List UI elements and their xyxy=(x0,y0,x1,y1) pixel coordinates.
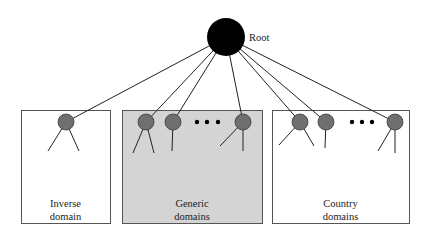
root-node-group: Root xyxy=(207,18,270,56)
root-node xyxy=(207,18,245,56)
domain-label-generic-line2: domains xyxy=(174,211,210,222)
dns-tree-diagram: Root InversedomainGenericdomainsCountryd… xyxy=(0,0,428,240)
generic-node xyxy=(235,114,251,130)
edge-root-to-inverse-0 xyxy=(66,37,226,122)
root-label: Root xyxy=(249,32,270,43)
ellipsis-dot xyxy=(216,120,220,124)
ellipsis-dot xyxy=(195,120,199,124)
ellipsis-dot xyxy=(350,120,354,124)
domain-label-country-line1: Country xyxy=(323,198,358,209)
domain-label-country-line2: domains xyxy=(323,211,359,222)
domain-label-inverse-line2: domain xyxy=(50,211,82,222)
generic-node xyxy=(138,114,154,130)
domain-label-generic-line1: Generic xyxy=(175,198,209,209)
ellipsis-dot xyxy=(360,120,364,124)
country-node xyxy=(292,114,308,130)
domain-label-inverse-line1: Inverse xyxy=(50,198,81,209)
inverse-node xyxy=(58,114,74,130)
generic-node xyxy=(165,114,181,130)
ellipsis-dot xyxy=(205,120,209,124)
country-node xyxy=(318,114,334,130)
ellipsis-dot xyxy=(370,120,374,124)
country-node xyxy=(387,114,403,130)
